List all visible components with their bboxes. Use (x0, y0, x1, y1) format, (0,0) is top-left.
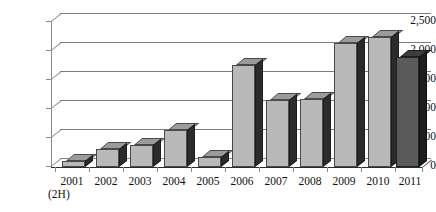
bar-front-face (130, 145, 153, 167)
bar-side-face (255, 59, 263, 167)
bar-front-face (266, 100, 289, 167)
x-axis-tick (259, 167, 260, 172)
gridline-riser (51, 43, 61, 51)
x-axis-tick (225, 167, 226, 172)
bar-front-face (396, 57, 419, 167)
bar-front-face (96, 149, 119, 167)
bar-2003[interactable] (130, 145, 153, 167)
x-axis-tick (157, 167, 158, 172)
y-axis-line (51, 21, 52, 167)
bar-side-face (419, 51, 427, 167)
bar-front-face (62, 161, 85, 167)
bar-side-face (153, 139, 161, 167)
bar-2006[interactable] (232, 65, 255, 167)
bar-side-face (187, 124, 195, 167)
bar-front-face (164, 130, 187, 167)
bar-2011[interactable] (396, 57, 419, 167)
bar-2002[interactable] (96, 149, 119, 167)
bar-side-face (289, 94, 297, 167)
bar-side-face (119, 143, 127, 167)
x-axis-tick (55, 167, 56, 172)
bar-side-face (323, 93, 331, 167)
bar-front-face (334, 43, 357, 167)
bar-front-face (232, 65, 255, 167)
y-axis-tick-label: 2,500 (392, 15, 436, 27)
x-axis-sublabel-text: (2H) (48, 188, 96, 201)
bar-2009[interactable] (334, 43, 357, 167)
bar-2008[interactable] (300, 99, 323, 167)
bar-2010[interactable] (368, 37, 391, 167)
gridline-riser (51, 130, 61, 138)
gridline (60, 13, 431, 14)
x-axis-tick (123, 167, 124, 172)
bar-side-face (357, 37, 365, 167)
x-axis-tick (361, 167, 362, 172)
x-axis-tick (327, 167, 328, 172)
x-axis-label-2011: 2011 (386, 175, 434, 188)
bar-2005[interactable] (198, 157, 221, 167)
bar-2004[interactable] (164, 130, 187, 167)
x-axis-tick (422, 167, 423, 172)
x-axis-label-text: 2001 (61, 175, 84, 187)
gridline-riser (51, 72, 61, 80)
x-axis-tick (293, 167, 294, 172)
gridline-riser (51, 14, 61, 22)
bar-front-face (198, 157, 221, 167)
x-axis-baseline (51, 167, 422, 168)
bar-front-face (368, 37, 391, 167)
x-axis-tick (191, 167, 192, 172)
gridline-riser (51, 159, 61, 167)
bar-2001[interactable] (62, 161, 85, 167)
x-axis-tick (89, 167, 90, 172)
bar-2007[interactable] (266, 100, 289, 167)
x-axis-tick (395, 167, 396, 172)
bar-chart: 2,500 2,000 1,500 1,000 500 0 (0, 0, 436, 212)
gridline-riser (51, 101, 61, 109)
bar-front-face (300, 99, 323, 167)
